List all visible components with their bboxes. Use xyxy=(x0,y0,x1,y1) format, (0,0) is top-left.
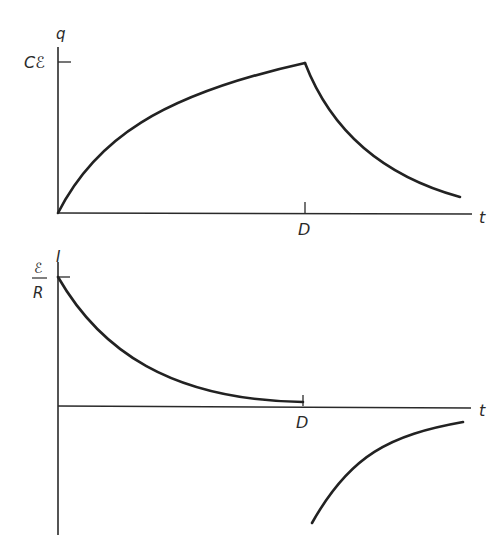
current-plot: I ℰ R D t xyxy=(32,248,486,535)
ce-label: Cℰ xyxy=(24,53,45,72)
discharging-curve xyxy=(305,63,460,197)
d-label-top: D xyxy=(298,220,310,239)
t-axis-bottom xyxy=(58,406,471,408)
charge-plot: q Cℰ D t xyxy=(24,25,486,239)
i-axis-label: I xyxy=(56,248,61,266)
t-label-bottom: t xyxy=(479,401,486,420)
d-label-bottom: D xyxy=(296,413,308,432)
e-over-r-numerator: ℰ xyxy=(34,260,42,276)
t-label-top: t xyxy=(479,208,486,227)
discharging-current-curve xyxy=(312,422,463,523)
rc-circuit-figure: q Cℰ D t I ℰ R D t xyxy=(0,0,503,553)
e-over-r-denominator: R xyxy=(33,284,43,302)
q-axis-label: q xyxy=(56,25,66,43)
t-axis-top xyxy=(58,213,472,214)
charging-curve xyxy=(58,63,305,213)
charging-current-curve xyxy=(58,277,303,402)
